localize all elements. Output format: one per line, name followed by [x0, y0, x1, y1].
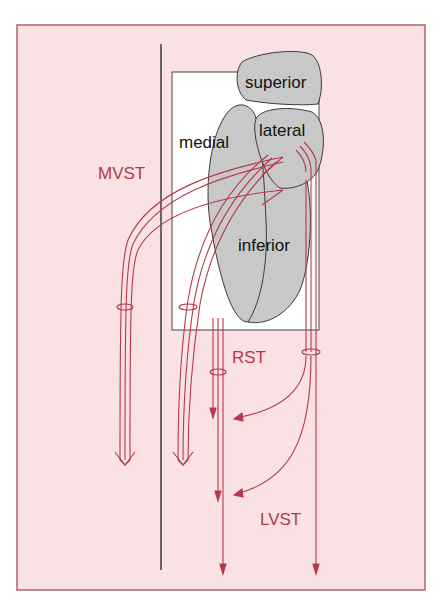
- label-lateral: lateral: [259, 121, 305, 140]
- vestibular-tracts-diagram: superior lateral medial inferior MVST RS…: [0, 0, 443, 600]
- label-medial: medial: [179, 133, 229, 152]
- label-lvst: LVST: [260, 510, 301, 529]
- label-superior: superior: [245, 73, 307, 92]
- label-inferior: inferior: [238, 236, 290, 255]
- label-mvst: MVST: [98, 164, 145, 183]
- label-rst: RST: [232, 348, 266, 367]
